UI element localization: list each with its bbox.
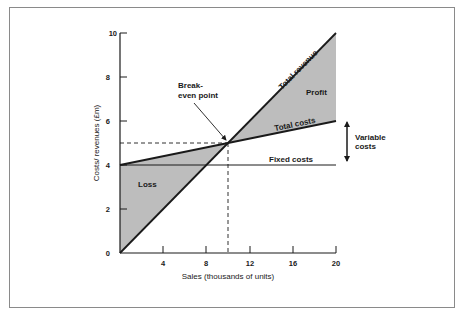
- variable-costs-label: costs: [355, 142, 376, 151]
- y-tick-label: 6: [106, 117, 110, 126]
- y-tick-label: 2: [106, 205, 110, 214]
- x-axis-title: Sales (thousands of units): [182, 272, 275, 281]
- y-tick-label: 10: [109, 29, 117, 38]
- y-tick-label: 8: [106, 73, 110, 82]
- breakeven-chart: 0 2 4 6 8 10 4 8 12 16 20 Sales (thousan…: [0, 0, 463, 319]
- loss-label: Loss: [138, 180, 157, 189]
- breakeven-arrow: [194, 103, 226, 140]
- variable-costs-label: Variable: [355, 133, 386, 142]
- y-tick-label: 0: [106, 249, 110, 258]
- x-tick-label: 12: [246, 259, 254, 268]
- x-tick-label: 8: [204, 259, 208, 268]
- breakeven-label: Break-: [178, 81, 203, 90]
- x-tick-label: 16: [289, 259, 297, 268]
- y-axis-title: Costs/ revenues (£m): [92, 104, 101, 181]
- x-tick-label: 20: [332, 259, 340, 268]
- fixed-costs-label: Fixed costs: [269, 155, 314, 164]
- y-tick-label: 4: [106, 161, 111, 170]
- breakeven-label: even point: [178, 91, 218, 100]
- x-tick-label: 4: [161, 259, 166, 268]
- x-ticks: [163, 246, 336, 253]
- profit-label: Profit: [306, 88, 327, 97]
